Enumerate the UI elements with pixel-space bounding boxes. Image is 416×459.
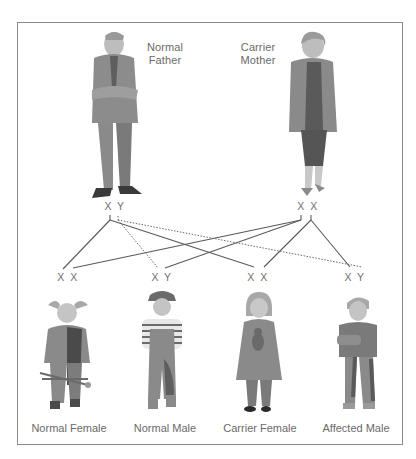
carrier-female-figure [230, 292, 288, 416]
child-label-normal-male: Normal Male [115, 422, 215, 434]
line-father-y-affected-male [118, 220, 362, 267]
normal-male-figure [134, 289, 190, 417]
child-genotype-normal-female: X X [53, 271, 83, 283]
child-genotype-affected-male: X Y [340, 271, 370, 283]
line-mother-x2-carrier-female [264, 220, 311, 267]
child-genotype-carrier-female: X X [243, 271, 273, 283]
child-label-normal-female: Normal Female [19, 422, 119, 434]
normal-female-figure [38, 295, 96, 417]
line-father-x-carrier-female [110, 220, 254, 267]
affected-male-figure [333, 293, 383, 415]
child-genotype-normal-male: X Y [147, 271, 177, 283]
child-label-carrier-female: Carrier Female [210, 422, 310, 434]
line-mother-x2-affected-male [311, 220, 350, 267]
child-label-affected-male: Affected Male [306, 422, 406, 434]
line-father-y-normal-male [118, 220, 158, 268]
